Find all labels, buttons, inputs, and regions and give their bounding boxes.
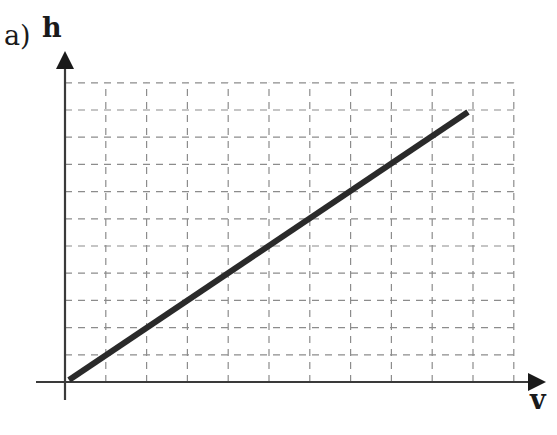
- y-axis-arrow-icon: [56, 51, 74, 69]
- chart-area: [0, 0, 557, 435]
- x-axis-arrow-icon: [528, 373, 546, 391]
